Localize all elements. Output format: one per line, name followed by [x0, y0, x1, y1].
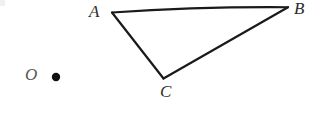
edge-ca: [112, 13, 164, 79]
edge-ab: [112, 7, 288, 12]
edge-bc: [164, 7, 289, 78]
point-label-o: O: [25, 66, 37, 83]
geometry-figure: A B C O: [0, 0, 327, 115]
vertex-label-a: A: [89, 3, 99, 20]
point-o-dot: [52, 73, 60, 81]
vertex-label-b: B: [294, 0, 304, 17]
vertex-label-c: C: [160, 83, 171, 100]
